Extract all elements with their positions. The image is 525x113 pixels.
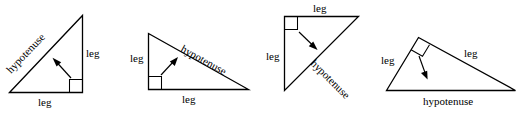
figure-canvas: hypotenuse leg leg hypotenuse leg leg [0,0,525,113]
triangle-3-leg-vertical-label: leg [266,50,280,62]
triangle-2: hypotenuse leg leg [130,34,249,106]
triangle-4-arrow-shaft [419,56,426,74]
triangle-4: hypotenuse leg leg [381,38,516,108]
triangle-4-leg-right-label: leg [464,47,478,59]
triangle-2-hypotenuse-label: hypotenuse [179,42,229,77]
triangle-4-hypotenuse-label: hypotenuse [423,95,473,107]
triangle-4-outline [387,38,516,91]
triangle-1-right-angle-marker [70,80,83,93]
triangle-1-leg-horizontal-label: leg [38,96,52,108]
triangle-2-leg-horizontal-label: leg [182,93,196,105]
triangle-2-leg-vertical-label: leg [130,52,144,64]
triangle-3-outline [285,17,359,91]
triangle-3-hypotenuse-label: hypotenuse [309,57,353,101]
triangle-4-leg-left-label: leg [381,54,395,66]
triangle-1-hypotenuse-label: hypotenuse [4,31,47,76]
triangle-3-leg-horizontal-label: leg [313,2,327,14]
triangle-1: hypotenuse leg leg [4,16,100,109]
triangle-3: hypotenuse leg leg [266,2,359,101]
triangle-2-right-angle-marker [149,77,162,90]
triangle-4-arrow-head [421,71,428,80]
triangles-diagram: hypotenuse leg leg hypotenuse leg leg [0,0,525,113]
triangle-3-right-angle-marker [285,17,298,30]
triangle-1-leg-vertical-label: leg [86,47,100,59]
